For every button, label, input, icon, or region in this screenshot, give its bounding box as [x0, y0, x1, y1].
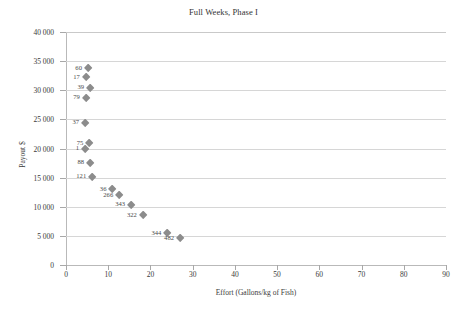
gridline — [66, 178, 446, 179]
data-point-label: 1 — [76, 144, 79, 151]
diamond-marker-icon — [83, 64, 92, 73]
data-point-label: 266 — [103, 191, 113, 198]
x-axis-line — [66, 265, 446, 266]
y-axis-title: Payout $ — [18, 115, 27, 195]
data-point-label: 322 — [127, 211, 137, 218]
x-tick-label: 0 — [46, 270, 86, 279]
data-point-label: 60 — [75, 64, 82, 71]
x-axis-title: Effort (Gallons/kg of Fish) — [66, 288, 446, 297]
chart-title: Full Weeks, Phase I — [0, 7, 447, 17]
y-tick-label: 10 000 — [2, 202, 54, 211]
data-point-label: 344 — [151, 229, 161, 236]
gridline — [66, 149, 446, 150]
y-tick-label: 15 000 — [2, 173, 54, 182]
gridline — [66, 61, 446, 62]
gridline — [66, 236, 446, 237]
x-tick-label: 30 — [173, 270, 213, 279]
data-point-label: 37 — [72, 118, 79, 125]
plot-area: 60173979377518812136266343322344482 — [66, 32, 446, 265]
gridline — [66, 119, 446, 120]
data-point-label: 39 — [77, 83, 84, 90]
y-tick-label: 30 000 — [2, 86, 54, 95]
x-tick-label: 10 — [88, 270, 128, 279]
data-point-label: 17 — [73, 73, 80, 80]
x-tick-label: 20 — [130, 270, 170, 279]
y-tick-label: 40 000 — [2, 28, 54, 37]
diamond-marker-icon — [86, 159, 95, 168]
y-tick-label: 25 000 — [2, 115, 54, 124]
diamond-marker-icon — [127, 200, 136, 209]
x-tick-label: 70 — [342, 270, 382, 279]
x-tick-label: 40 — [215, 270, 255, 279]
data-point-label: 79 — [73, 93, 80, 100]
y-tick-label: 0 — [2, 261, 54, 270]
gridline — [66, 32, 446, 33]
data-point-label: 121 — [76, 172, 86, 179]
x-tick-label: 50 — [257, 270, 297, 279]
diamond-marker-icon — [81, 73, 90, 82]
diamond-marker-icon — [115, 191, 124, 200]
x-tick-label: 80 — [384, 270, 424, 279]
y-tick-label: 20 000 — [2, 144, 54, 153]
x-tick-label: 60 — [299, 270, 339, 279]
y-tick-label: 5 000 — [2, 231, 54, 240]
x-tick-label: 90 — [426, 270, 455, 279]
data-point-label: 482 — [164, 234, 174, 241]
diamond-marker-icon — [81, 93, 90, 102]
gridline — [66, 90, 446, 91]
diamond-marker-icon — [88, 173, 97, 182]
diamond-marker-icon — [138, 211, 147, 220]
data-point-label: 88 — [77, 158, 84, 165]
data-point-label: 343 — [115, 200, 125, 207]
y-tick-label: 35 000 — [2, 57, 54, 66]
